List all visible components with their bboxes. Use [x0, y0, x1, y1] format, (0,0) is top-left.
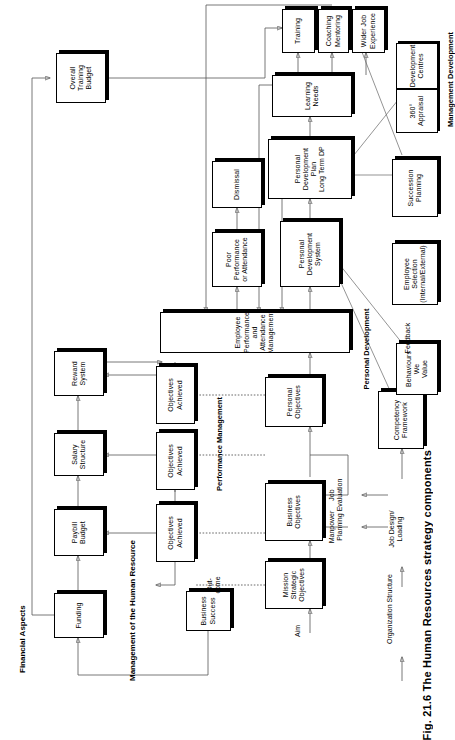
box-employee-selection[interactable]: Employee Selection (Internal/External) [392, 243, 438, 305]
label-job-evaluation: Job Evaluation [328, 471, 345, 519]
section-title-management-development: Management Development [446, 31, 455, 127]
box-objectives-achieved-2[interactable]: Objectives Achieved [156, 432, 195, 490]
box-personal-development-plan[interactable]: Personal Development Plan Long Term DP [268, 139, 352, 199]
box-training[interactable]: Training [282, 9, 315, 53]
box-wider-job-experience[interactable]: Wider Job Experience [352, 9, 385, 53]
box-overall-training-budget[interactable]: Overall Training Budget [56, 53, 106, 103]
section-title-management-of-hr: Management of the Human Resource [128, 471, 138, 681]
section-title-personal-development: Personal Development [362, 299, 371, 399]
section-title-performance-management: Performance Management [215, 389, 224, 499]
section-title-financial-aspects: Financial Aspects [18, 553, 28, 673]
box-coaching-mentoring[interactable]: Coaching Mentoring [318, 9, 349, 53]
box-360-appraisal[interactable]: 360° Appraisal [396, 89, 438, 133]
box-learning-needs[interactable]: Learning Needs [272, 75, 352, 117]
figure-caption: Fig. 21.6 The Human Resources strategy c… [421, 450, 443, 740]
box-business-objectives[interactable]: Business Objectives [265, 483, 323, 541]
box-employee-performance-attendance[interactable]: Employee Performance and Attendance Mana… [160, 312, 350, 353]
box-dismissal[interactable]: Dismissal [212, 161, 262, 208]
box-mission-strategic-objectives[interactable]: Mission Strategic Objectives [265, 561, 323, 609]
box-reward-system[interactable]: Reward System [54, 351, 104, 396]
box-succession-planning[interactable]: Succession Planning [392, 159, 438, 217]
box-funding[interactable]: Funding [54, 593, 104, 638]
label-feedback: Feedback [404, 313, 412, 363]
box-paybill-budget[interactable]: Paybill Budget [54, 509, 104, 556]
box-behaviours-we-value-main[interactable]: Behaviours We Value [396, 343, 438, 395]
label-outcome: Out- come [206, 571, 223, 599]
box-competency-framework[interactable]: Competency Framework [378, 391, 424, 449]
box-development-centres[interactable]: Development Centres [396, 43, 438, 89]
label-job-design-loading: Job Design/ Loading [388, 503, 405, 555]
box-personal-objectives[interactable]: Personal Objectives [265, 377, 323, 427]
box-objectives-achieved-3[interactable]: Objectives Achieved [156, 366, 195, 424]
box-salary-structure[interactable]: Salary Structure [54, 433, 104, 476]
box-personal-development-system[interactable]: Personal Development System [280, 221, 340, 287]
label-organization-structure: Organization Structure [386, 565, 394, 653]
diagram-canvas: Funding Paybill Budget Salary Structure … [10, 0, 440, 695]
box-poor-performance[interactable]: Poor Performance or Attendance [212, 232, 262, 287]
box-objectives-achieved-1[interactable]: Objectives Achieved [156, 504, 195, 562]
label-aim: Aim [294, 619, 302, 643]
